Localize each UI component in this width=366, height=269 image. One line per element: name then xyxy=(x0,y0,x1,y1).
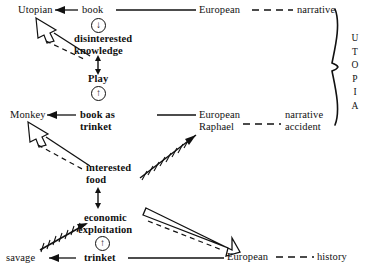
node-history: history xyxy=(317,251,347,263)
node-disinterested: disinterested xyxy=(74,33,132,45)
node-european-bottom: European xyxy=(227,251,268,263)
utopia-letter-o: O xyxy=(348,59,362,73)
edge-hatched-to-raphael xyxy=(140,135,196,180)
node-narrative-mid: narrative xyxy=(285,109,323,121)
utopia-letter-a: A xyxy=(348,100,362,114)
node-european-mid: European xyxy=(199,109,240,121)
utopia-vertical-label: U T O P I A xyxy=(348,32,362,113)
node-trinket-bottom: trinket xyxy=(84,252,116,264)
node-european-top: European xyxy=(199,4,240,16)
node-raphael: Raphael xyxy=(199,121,234,133)
node-food: food xyxy=(86,174,106,186)
utopia-letter-t: T xyxy=(348,46,362,60)
node-savage: savage xyxy=(6,252,35,264)
node-trinket-mid: trinket xyxy=(80,121,112,133)
node-economic: economic xyxy=(84,212,127,224)
node-knowledge: knowledge xyxy=(74,45,123,57)
node-book-as: book as xyxy=(80,109,115,121)
circled-up-arrow-play-icon: ↑ xyxy=(91,86,106,101)
utopia-letter-p: P xyxy=(348,73,362,87)
diagram-lines xyxy=(0,0,366,269)
edge-knowledge-play xyxy=(95,55,101,75)
utopia-letter-i: I xyxy=(348,86,362,100)
edge-exploitation-to-european xyxy=(143,208,240,256)
node-book: book xyxy=(82,4,103,16)
utopia-letter-u: U xyxy=(348,32,362,46)
node-play: Play xyxy=(88,73,108,85)
edge-food-economic xyxy=(95,187,101,209)
node-exploitation: exploitation xyxy=(78,224,132,236)
circled-up-arrow-exploitation-icon: ↑ xyxy=(95,236,110,251)
node-accident: accident xyxy=(285,121,321,133)
node-utopian: Utopian xyxy=(18,4,53,16)
diagram-canvas: Utopian book European narrative ↓ disint… xyxy=(0,0,366,269)
node-monkey: Monkey xyxy=(10,109,46,121)
circled-down-arrow-icon: ↓ xyxy=(91,18,106,33)
node-interested: interested xyxy=(86,162,131,174)
